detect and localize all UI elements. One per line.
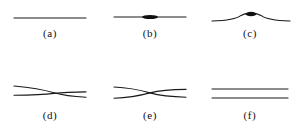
figure-container: (a) (b) (c) (d) (e) (f) [0, 0, 300, 131]
panel-b-graphic [114, 15, 186, 19]
panel-e-graphic [114, 87, 186, 98]
panel-label-d: (d) [0, 110, 100, 121]
panel-d-graphic [14, 86, 86, 97]
panel-label-c: (c) [200, 28, 300, 39]
panel-e-upper-to-lower-branch [114, 87, 186, 97]
panel-label-a: (a) [0, 28, 100, 39]
panel-label-b: (b) [100, 28, 200, 39]
panel-label-e: (e) [100, 110, 200, 121]
panel-c-graphic [212, 12, 290, 21]
panel-label-f: (f) [200, 110, 300, 121]
panel-f-graphic [212, 89, 288, 98]
panel-d-lower-branch [14, 92, 86, 95]
panel-c-apex-blob [246, 12, 257, 16]
panel-b-lens-blob [142, 15, 158, 19]
